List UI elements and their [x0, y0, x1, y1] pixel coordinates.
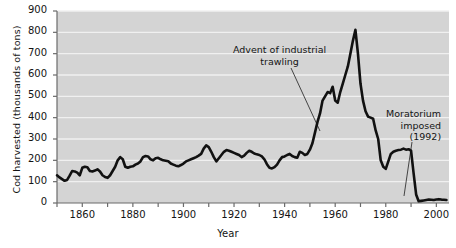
moratorium-line-3: (1992) — [386, 131, 441, 143]
x-tick-label-1900: 1900 — [163, 209, 203, 220]
y-tick-label-300: 300 — [13, 132, 47, 143]
y-tick-label-400: 400 — [13, 111, 47, 122]
x-tick-label-1960: 1960 — [315, 209, 355, 220]
moratorium-line-1: Moratorium — [386, 108, 441, 120]
moratorium-line-2: imposed — [386, 120, 441, 132]
cod-harvest-chart-figure: Cod harvested (thousands of tons) Year A… — [0, 0, 456, 248]
y-tick-label-0: 0 — [13, 196, 47, 207]
x-axis-title: Year — [0, 228, 456, 239]
trawling-line-2: trawling — [233, 56, 326, 68]
x-tick-label-1940: 1940 — [265, 209, 305, 220]
x-tick-label-1860: 1860 — [62, 209, 102, 220]
plot-background — [57, 11, 449, 203]
x-tick-label-1920: 1920 — [214, 209, 254, 220]
y-tick-label-900: 900 — [13, 4, 47, 15]
y-tick-label-800: 800 — [13, 25, 47, 36]
annotation-moratorium-imposed: Moratorium imposed (1992) — [386, 108, 441, 143]
annotation-advent-of-industrial-trawling: Advent of industrial trawling — [233, 44, 326, 67]
x-tick-label-1980: 1980 — [366, 209, 406, 220]
y-tick-label-600: 600 — [13, 68, 47, 79]
x-tick-label-1880: 1880 — [113, 209, 153, 220]
y-tick-label-200: 200 — [13, 153, 47, 164]
y-tick-label-500: 500 — [13, 89, 47, 100]
x-tick-marks — [57, 203, 436, 207]
trawling-line-1: Advent of industrial — [233, 44, 326, 56]
y-tick-label-700: 700 — [13, 47, 47, 58]
x-tick-label-2000: 2000 — [416, 209, 456, 220]
y-tick-label-100: 100 — [13, 175, 47, 186]
